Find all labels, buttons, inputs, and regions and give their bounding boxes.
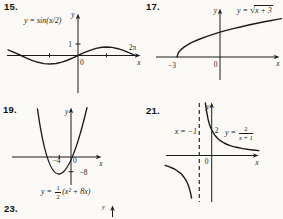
sqrt-curve [177, 19, 281, 57]
problem-number: 23. [4, 203, 18, 214]
origin-label: 0 [73, 156, 77, 165]
graph-17-panel: y x −3 0 17. y = √x + 3 [142, 0, 283, 100]
origin-label: 0 [214, 60, 218, 69]
equation-suffix: (x² + 8x) [62, 187, 90, 196]
equation-prefix: y = [225, 128, 238, 137]
y-axis-label: y [70, 10, 75, 19]
graph-23-panel: 23. y [0, 200, 283, 219]
equation-label: y = sin(x/2) [24, 17, 61, 26]
x-axis-label: x [136, 58, 141, 67]
radicand: x + 3 [254, 5, 273, 15]
tick-label-minus4: −4 [53, 156, 61, 165]
graph-19-panel: y x −4 0 −8 19. y = 12(x² + 8x) [0, 100, 142, 200]
plot-15: y x 1 0 2π [0, 0, 142, 100]
y-axis-label: y [102, 204, 105, 212]
problem-number: 17. [146, 1, 160, 12]
problem-number: 21. [146, 105, 160, 116]
problem-number: 19. [3, 104, 17, 115]
x-axis-label: x [98, 159, 103, 168]
origin-label: 0 [80, 58, 84, 67]
problem-number: 15. [4, 1, 18, 12]
origin-label: 0 [205, 157, 209, 166]
equation-label: y = 2x + 1 [225, 126, 254, 142]
tick-label-minus8: −8 [80, 168, 88, 177]
fraction-denominator: x + 1 [239, 134, 253, 141]
plot-23-axis-tip [109, 205, 117, 217]
fraction: 12 [55, 185, 61, 201]
y-axis-label: y [213, 6, 218, 15]
x-axis-label: x [254, 158, 259, 167]
textbook-graphs-page: y x 1 0 2π 15. y = sin(x/2) y x −3 0 17.… [0, 0, 283, 219]
tick-label-minus3: −3 [168, 61, 176, 70]
parabola-curve [38, 108, 88, 174]
fraction: 2x + 1 [239, 126, 253, 142]
y-axis-label: y [205, 102, 210, 111]
equation-label: y = 12(x² + 8x) [41, 185, 90, 201]
tick-label-2: 2 [215, 126, 219, 135]
y-axis-label: y [64, 107, 69, 116]
hyperbola-left-branch [165, 166, 191, 199]
plot-21: y x 0 2 [142, 100, 283, 215]
x-axis-label: x [275, 59, 280, 68]
graph-15-panel: y x 1 0 2π 15. y = sin(x/2) [0, 0, 142, 100]
tick-label-1: 1 [68, 40, 72, 49]
equation-prefix: y = [41, 187, 54, 196]
asymptote-label: x = −1 [170, 128, 197, 137]
graph-21-panel: y x 0 2 21. x = −1 y = 2x + 1 [142, 100, 283, 215]
tick-label-2pi: 2π [129, 43, 137, 52]
equation-label: y = √x + 3 [237, 6, 273, 16]
equation-prefix: y = [237, 6, 250, 15]
